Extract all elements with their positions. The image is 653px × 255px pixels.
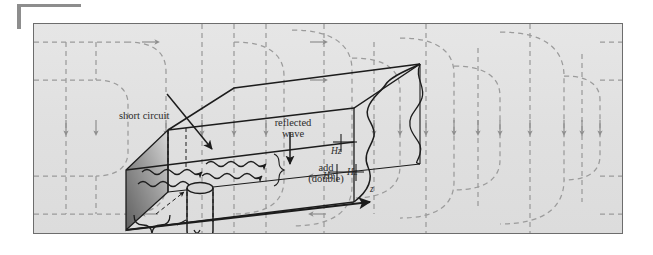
label-reflected-wave-line2: wave <box>282 128 304 139</box>
label-short-circuit: short circuit <box>119 110 169 121</box>
probe-top-ellipse <box>187 183 213 194</box>
figure-frame: short circuit reflected wave add (double… <box>33 23 623 234</box>
figure-background <box>34 24 622 233</box>
waveguide-diagram-svg <box>34 24 622 233</box>
label-h-field-z-bottom: Hz <box>347 167 358 177</box>
label-axis-z: z <box>370 184 374 194</box>
label-reflected-wave: reflected wave <box>263 117 323 140</box>
label-reflected-wave-line1: reflected <box>275 117 312 128</box>
figure-page: short circuit reflected wave add (double… <box>0 0 653 255</box>
label-h-field-z-top: Hz <box>331 146 342 156</box>
label-h-field-x: Hx <box>323 171 334 181</box>
